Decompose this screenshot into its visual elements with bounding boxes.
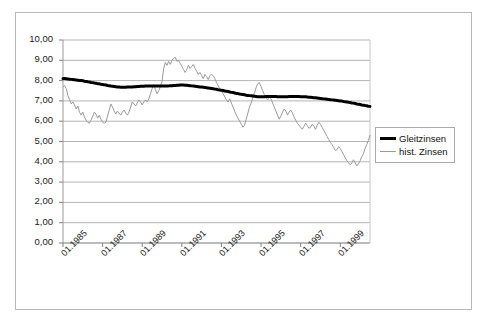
y-axis-tick-label: 4,00 <box>11 156 53 166</box>
y-axis-tick-label: 5,00 <box>11 136 53 146</box>
y-axis-tick-label: 10,00 <box>11 34 53 44</box>
y-axis-tick-label: 8,00 <box>11 75 53 85</box>
legend-swatch-line-icon <box>380 146 396 157</box>
legend-label: hist. Zinsen <box>399 146 448 157</box>
y-axis-tick-label: 7,00 <box>11 95 53 105</box>
data-series-layer <box>63 57 370 166</box>
legend-item-gleitzinsen: Gleitzinsen <box>380 132 451 145</box>
y-axis-tick-label: 3,00 <box>11 176 53 186</box>
y-axis-tick-label: 6,00 <box>11 115 53 125</box>
legend-swatch-line-icon <box>380 133 396 144</box>
y-axis-tick-label: 1,00 <box>11 217 53 227</box>
y-axis-tick-label: 2,00 <box>11 196 53 206</box>
gridlines <box>63 40 370 243</box>
y-axis-ticks <box>59 40 63 243</box>
legend-label: Gleitzinsen <box>399 133 446 144</box>
y-axis-tick-label: 0,00 <box>11 237 53 247</box>
y-axis-tick-label: 9,00 <box>11 54 53 64</box>
series-line <box>63 57 370 166</box>
chart-legend: Gleitzinsen hist. Zinsen <box>375 127 455 163</box>
legend-item-hist-zinsen: hist. Zinsen <box>380 145 451 158</box>
